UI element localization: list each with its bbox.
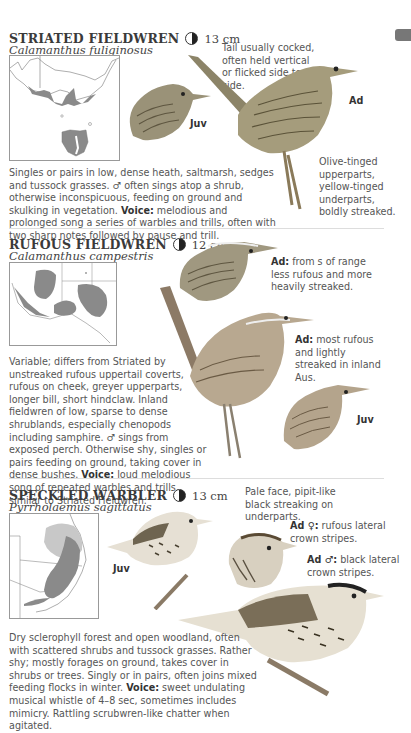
half-filled-circle-icon [185, 32, 198, 45]
range-map-svg [10, 263, 116, 345]
label-juv: Juv [357, 414, 374, 425]
description-text: Variable; differs from Striated by unstr… [9, 356, 206, 480]
range-map-striated-fieldwren [9, 55, 120, 161]
section-divider [9, 478, 384, 479]
species-description: Singles or pairs in low, dense heath, sa… [9, 167, 277, 243]
note-face: Pale face, pipit-like black streaking on… [245, 486, 355, 524]
half-filled-circle-icon [173, 489, 186, 502]
note-ad-label: Ad: [295, 334, 313, 345]
species-description: Dry sclerophyll forest and open woodland… [9, 632, 259, 733]
range-map-svg [10, 56, 119, 160]
species-size: 13 cm [192, 489, 228, 503]
species-scientific-name: Calamanthus campestris [9, 249, 153, 263]
range-map-speckled-warbler [9, 513, 99, 619]
voice-label: Voice: [121, 205, 154, 216]
label-ad: Ad [349, 95, 363, 106]
range-map-svg [10, 514, 98, 618]
note-plumage: Olive-tinged upperparts, yellow-tinged u… [319, 156, 404, 219]
note-ad-label: Ad: [271, 256, 289, 267]
note-female-label: Ad ♀: [290, 520, 319, 531]
section-divider [9, 228, 384, 229]
note-male-label: Ad ♂: [307, 554, 337, 565]
voice-label: Voice: [126, 682, 159, 693]
label-juv: Juv [113, 563, 130, 574]
note-female: Ad ♀: rufous lateral crown stripes. [290, 520, 390, 545]
range-map-rufous-fieldwren [9, 262, 117, 346]
note-male: Ad ♂: black lateral crown stripes. [307, 554, 407, 579]
page-section-tab [395, 29, 411, 41]
